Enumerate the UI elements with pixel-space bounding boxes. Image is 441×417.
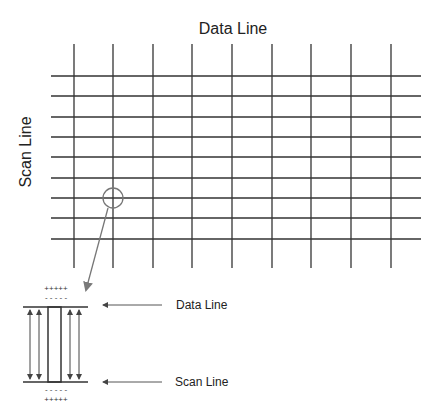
pixel-detail: +++++ - - - - - - - - - - +++++ Data Lin… (23, 284, 229, 404)
pixel-grid-diagram: Data Line Scan Line +++++ - - - - - - - … (0, 0, 441, 417)
bottom-plus-charges: +++++ (44, 395, 68, 404)
scan-line-label: Scan Line (175, 375, 229, 389)
line-grid (51, 44, 421, 268)
pixel-electrode (48, 307, 61, 382)
zoom-pointer-arrow (86, 208, 108, 290)
diagram-title: Data Line (199, 20, 268, 37)
top-plus-charges: +++++ (44, 284, 68, 293)
bottom-minus-charges: - - - - - (45, 385, 68, 394)
top-minus-charges: - - - - - (45, 293, 68, 302)
scan-line-axis-label: Scan Line (17, 116, 34, 187)
data-line-label: Data Line (176, 298, 228, 312)
